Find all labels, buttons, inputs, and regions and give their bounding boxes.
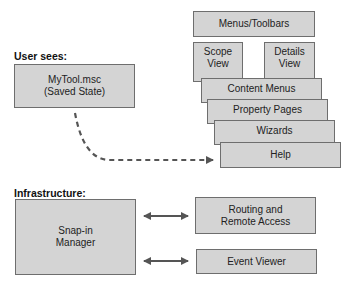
snapin-manager-line2: Manager <box>56 237 95 249</box>
console-file-name: MyTool.msc <box>44 74 105 86</box>
scope-view-line2: View <box>204 58 232 70</box>
routing-remote-access-box: Routing and Remote Access <box>195 197 316 234</box>
details-view-box: Details View <box>264 42 315 80</box>
scope-view-line1: Scope <box>204 46 232 58</box>
event-viewer-box: Event Viewer <box>196 249 317 274</box>
infrastructure-label: Infrastructure: <box>14 187 86 199</box>
dashed-arrow-to-ui <box>75 113 213 160</box>
details-view-line1: Details <box>274 46 305 58</box>
details-view-line2: View <box>274 58 305 70</box>
user-sees-label: User sees: <box>14 50 67 62</box>
scope-view-box: Scope View <box>193 42 243 82</box>
snapin-manager-box: Snap-in Manager <box>15 199 136 275</box>
snapin-manager-line1: Snap-in <box>56 225 95 237</box>
help-box: Help <box>220 142 341 168</box>
menus-toolbars-box: Menus/Toolbars <box>193 11 315 37</box>
console-file-box: MyTool.msc (Saved State) <box>14 64 135 108</box>
console-file-state: (Saved State) <box>44 86 105 98</box>
routing-line1: Routing and <box>221 204 290 216</box>
routing-line2: Remote Access <box>221 216 290 228</box>
